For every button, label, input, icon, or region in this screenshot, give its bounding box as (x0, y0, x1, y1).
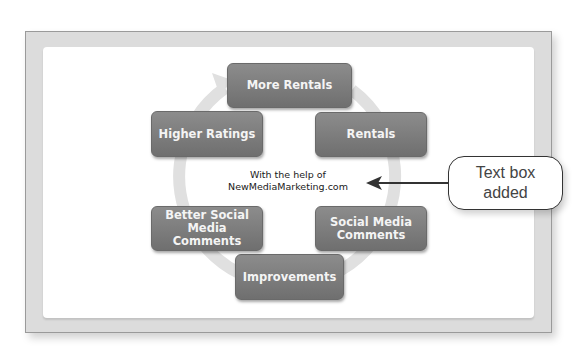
callout-line1: Text box (476, 163, 536, 183)
node-higher-ratings[interactable]: Higher Ratings (151, 111, 263, 157)
node-label: Higher Ratings (159, 128, 256, 141)
node-better-social-media-comments[interactable]: Better Social Media Comments (151, 206, 263, 251)
node-label: More Rentals (247, 79, 333, 92)
node-label: Rentals (347, 128, 396, 141)
node-rentals[interactable]: Rentals (315, 112, 427, 157)
annotation-callout: Text box added (448, 156, 563, 210)
node-social-media-comments[interactable]: Social Media Comments (315, 206, 427, 251)
node-label: Social Media Comments (326, 216, 416, 242)
center-text-line1: With the help of (213, 169, 363, 181)
node-more-rentals[interactable]: More Rentals (227, 63, 352, 108)
callout-line2: added (476, 183, 536, 203)
node-label: Improvements (243, 271, 337, 284)
node-improvements[interactable]: Improvements (235, 254, 344, 300)
center-text-box[interactable]: With the help of NewMediaMarketing.com (213, 169, 363, 193)
center-text-line2: NewMediaMarketing.com (213, 181, 363, 193)
node-label: Better Social Media Comments (162, 209, 252, 248)
